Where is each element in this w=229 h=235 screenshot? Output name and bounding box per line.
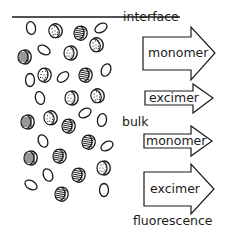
open-molecule-icon — [36, 43, 51, 57]
open-molecule-icon — [99, 62, 113, 78]
striped-molecule-icon — [73, 25, 88, 41]
open-molecule-icon — [25, 21, 36, 35]
striped-molecule-icon — [21, 115, 34, 129]
dotted-molecule-icon — [47, 22, 64, 40]
arrow-label-monomer-interface: monomer — [148, 46, 208, 60]
open-molecule-icon — [93, 21, 108, 35]
bulk-label: bulk — [122, 115, 149, 129]
dotted-molecule-icon — [89, 87, 106, 105]
open-molecule-icon — [36, 133, 50, 149]
open-molecule-icon — [55, 70, 70, 85]
open-molecule-icon — [100, 184, 109, 197]
dotted-molecule-icon — [64, 46, 77, 60]
striped-molecule-icon — [71, 167, 86, 183]
striped-molecule-icon — [78, 67, 93, 83]
striped-molecule-icon — [81, 134, 96, 150]
dotted-molecule-icon — [88, 36, 105, 54]
arrow-label-excimer-interface: excimer — [149, 91, 199, 105]
interface-label: interface — [123, 10, 179, 24]
open-molecule-icon — [99, 139, 114, 153]
dotted-molecule-icon — [97, 161, 110, 175]
open-molecule-icon — [26, 74, 35, 87]
arrow-label-monomer-bulk: monomer — [146, 134, 206, 148]
dotted-molecule-icon — [42, 109, 58, 126]
open-molecule-icon — [41, 167, 55, 183]
dotted-molecule-icon — [65, 91, 78, 105]
striped-molecule-icon — [54, 186, 69, 202]
fluorescence-label: fluorescence — [133, 214, 213, 228]
open-molecule-icon — [23, 178, 38, 192]
diagram-canvas — [0, 0, 229, 235]
arrow-label-excimer-bulk: excimer — [150, 182, 200, 196]
striped-molecule-icon — [61, 118, 76, 134]
striped-molecule-icon — [52, 148, 67, 164]
striped-molecule-icon — [18, 50, 31, 64]
open-molecule-icon — [34, 91, 46, 106]
open-molecule-icon — [77, 106, 92, 120]
striped-molecule-icon — [24, 151, 37, 165]
open-molecule-icon — [96, 113, 107, 127]
dotted-molecule-icon — [37, 67, 52, 83]
molecule-layer — [18, 21, 115, 202]
